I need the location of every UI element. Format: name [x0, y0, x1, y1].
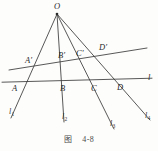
line-label-l2-base: l [62, 112, 64, 121]
line-label-l2: l2 [62, 113, 67, 121]
apex-dot-O [56, 13, 59, 16]
point-label-C-prime: C' [76, 49, 84, 58]
line-label-l4: l4 [145, 112, 150, 120]
line-label-l3-sub: 3 [113, 123, 116, 129]
line-label-l1-sub: 1 [12, 111, 15, 117]
point-label-B-prime: B' [58, 51, 65, 60]
caption-number: 4-8 [82, 135, 94, 144]
ray-l3 [57, 14, 114, 129]
point-label-A: A [12, 84, 17, 93]
line-label-l1: l1 [9, 108, 14, 116]
line-label-l4-sub: 4 [148, 115, 151, 121]
point-label-B: B [60, 84, 65, 93]
line-label-l1-base: l [9, 107, 11, 116]
caption-label: 图 [64, 135, 73, 144]
ray-l2 [57, 14, 64, 122]
line-label-l3: l3 [110, 120, 115, 128]
line-label-l3-base: l [110, 119, 112, 128]
point-label-C: C [91, 84, 97, 93]
vertex-dot-group [56, 13, 59, 16]
point-label-D-prime: D' [99, 43, 107, 52]
ray-l4 [57, 14, 150, 120]
point-label-A-prime: A' [25, 56, 32, 65]
geometry-figure: O A' B' C' D' A B C D l l1 l2 l3 l4 图4-8 [0, 0, 158, 151]
line-label-l4-base: l [145, 111, 147, 120]
figure-caption: 图4-8 [0, 133, 158, 144]
line-label-l: l [148, 73, 150, 82]
point-label-O: O [54, 2, 60, 11]
transversal-lower-line [2, 78, 152, 82]
line-label-l2-sub: 2 [65, 116, 68, 122]
figure-canvas [0, 0, 158, 151]
point-label-D: D [117, 83, 123, 92]
ray-pencil [11, 14, 150, 129]
